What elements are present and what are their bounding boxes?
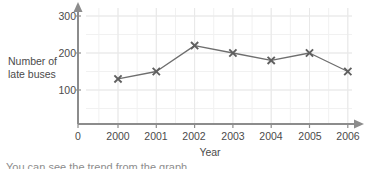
grid-minor-lines — [86, 8, 352, 124]
plot-area — [0, 0, 365, 169]
chart-screenshot: Number of late buses Year 300 200 100 0 … — [0, 0, 365, 169]
caption-text: You can see the trend from the graph. — [6, 161, 190, 169]
grid-major-lines — [86, 8, 352, 124]
axis-lines — [74, 2, 365, 129]
